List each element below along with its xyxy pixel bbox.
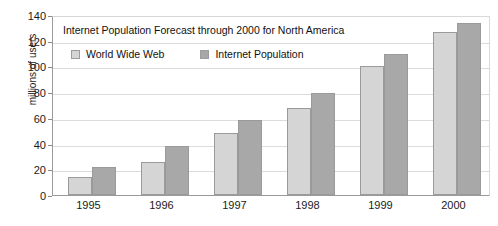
bar (311, 93, 335, 195)
gridline (53, 120, 489, 121)
y-axis-tick-label: 60 (6, 114, 46, 124)
gridline (53, 68, 489, 69)
y-axis-tick-labels: 140120100806040200 (0, 0, 46, 226)
gridline (53, 146, 489, 147)
bar (165, 146, 189, 195)
bar-group (68, 17, 116, 195)
x-axis-tick-label: 1999 (346, 199, 416, 211)
x-axis-tick-label: 1996 (127, 199, 197, 211)
y-axis-tick-label: 80 (6, 88, 46, 98)
y-axis-tick-label: 40 (6, 140, 46, 150)
y-axis-tick-label: 140 (6, 11, 46, 21)
bar (68, 177, 92, 195)
bar-chart: millions of users 140120100806040200 Int… (0, 0, 498, 226)
bar-group (287, 17, 335, 195)
y-axis-tick-label: 100 (6, 62, 46, 72)
bar-group (141, 17, 189, 195)
gridline (53, 94, 489, 95)
bar (287, 108, 311, 195)
gridline (53, 171, 489, 172)
x-axis-tick-label: 1997 (200, 199, 270, 211)
x-axis-tick-label: 1995 (54, 199, 124, 211)
bar (360, 66, 384, 195)
legend-swatch-icon (200, 50, 209, 59)
plot-area: Internet Population Forecast through 200… (52, 16, 490, 196)
y-axis-tick-mark (48, 196, 52, 197)
bar-group (214, 17, 262, 195)
y-axis-tick-label: 0 (6, 191, 46, 201)
x-axis-tick-label: 2000 (419, 199, 489, 211)
bar (433, 32, 457, 195)
y-axis-tick-label: 20 (6, 165, 46, 175)
bar (214, 133, 238, 195)
y-axis-tick-label: 120 (6, 37, 46, 47)
x-axis-tick-label: 1998 (273, 199, 343, 211)
bar (141, 162, 165, 195)
gridline (53, 43, 489, 44)
bar (457, 23, 481, 195)
bar-group (360, 17, 408, 195)
x-axis-tick-labels: 199519961997199819992000 (52, 199, 490, 219)
bar-group (433, 17, 481, 195)
bar (92, 167, 116, 195)
bar (238, 120, 262, 195)
bar (384, 54, 408, 195)
